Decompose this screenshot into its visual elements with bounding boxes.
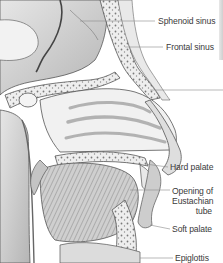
sphenoid-sinus-shape <box>19 93 37 107</box>
label-sphenoid-sinus: Sphenoid sinus <box>158 16 215 26</box>
label-eustachian-line2: Eustachian <box>172 196 212 206</box>
label-hard-palate: Hard palate <box>170 162 213 172</box>
anatomy-illustration: Sphenoid sinus Frontal sinus Hard palate… <box>0 0 223 263</box>
label-eustachian-line3: tube <box>172 206 212 216</box>
label-epiglottis: Epiglottis <box>175 253 209 263</box>
label-frontal-sinus: Frontal sinus <box>166 42 214 52</box>
label-eustachian-line1: Opening of <box>172 186 212 196</box>
label-soft-palate: Soft palate <box>172 224 212 234</box>
page-edge <box>219 0 223 60</box>
